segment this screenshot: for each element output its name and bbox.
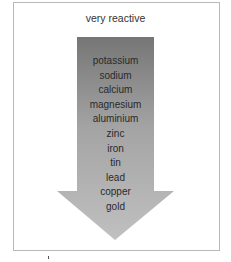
metal-item: tin [77,156,154,171]
metal-item: magnesium [77,98,154,113]
metal-item: lead [77,171,154,186]
metal-item: copper [77,185,154,200]
metal-item: iron [77,142,154,157]
metal-item: calcium [77,83,154,98]
metal-item: aluminium [77,112,154,127]
metal-item: gold [77,200,154,215]
metal-item: potassium [77,54,154,69]
metal-list: potassium sodium calcium magnesium alumi… [77,54,154,215]
scan-speck [48,256,49,259]
metal-item: sodium [77,69,154,84]
metal-item: zinc [77,127,154,142]
